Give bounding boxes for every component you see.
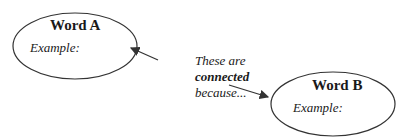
caption-line-2: connected: [195, 69, 249, 85]
caption-line-1: These are: [195, 53, 249, 69]
node-a-title: Word A: [50, 17, 100, 34]
caption-line-3: because...: [195, 85, 249, 101]
node-b-example: Example:: [293, 100, 343, 116]
connector-caption: These are connected because...: [195, 53, 249, 101]
node-b-title: Word B: [312, 77, 362, 94]
node-a-example: Example:: [30, 40, 80, 56]
